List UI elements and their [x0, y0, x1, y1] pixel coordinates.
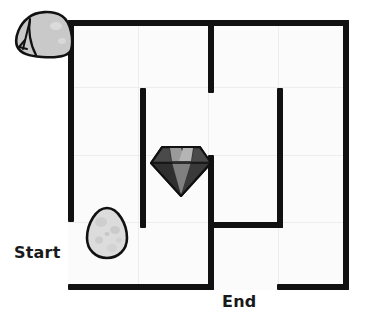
tent-icon — [14, 10, 76, 60]
start-label: Start — [14, 243, 61, 262]
outer-wall-right — [343, 20, 349, 290]
diamond-icon — [150, 143, 212, 199]
maze-canvas: Start End — [0, 0, 367, 325]
outer-wall-bottom-left — [68, 284, 214, 290]
end-label: End — [222, 292, 256, 311]
outer-wall-bottom-right — [277, 284, 349, 290]
inner-wall-chamber-floor — [208, 222, 283, 228]
egg-icon — [85, 206, 129, 260]
inner-wall-center-upper — [208, 20, 214, 93]
inner-wall-middle-left — [140, 88, 146, 228]
inner-wall-right-vertical — [277, 88, 283, 228]
